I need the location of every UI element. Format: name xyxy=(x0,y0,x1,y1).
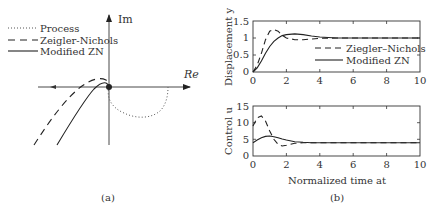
displacement-ylabel: Displacement y xyxy=(223,8,234,86)
ziegler-nichols-curve xyxy=(34,79,109,145)
ytick-label: 5 xyxy=(243,134,249,145)
panel-b-control-plot: 0 5 10 15 0 2 4 6 8 10 Control u xyxy=(223,101,426,170)
process-curve xyxy=(108,87,168,117)
xtick-label: 2 xyxy=(283,75,289,86)
control-zn-curve xyxy=(253,116,420,146)
modified-zn-curve xyxy=(57,83,109,145)
xtick-label: 8 xyxy=(383,159,389,170)
xtick-label: 6 xyxy=(350,159,356,170)
control-ylabel: Control u xyxy=(223,107,234,155)
legend-label-ziegler-nichols: Zeigler-Nichols xyxy=(40,35,118,46)
xtick-label: 4 xyxy=(317,159,323,170)
panel-a-nyquist-plot: Re Im Process Zeigler-Nichols Modified Z… xyxy=(8,13,199,203)
re-axis-label: Re xyxy=(183,68,199,81)
panel-a-legend: Process Zeigler-Nichols Modified ZN xyxy=(8,23,118,57)
origin-point-icon xyxy=(106,84,112,90)
ytick-label: 0 xyxy=(243,66,249,77)
legend-label-process: Process xyxy=(40,23,79,34)
ytick-label: 15 xyxy=(236,101,249,112)
panel-b-legend: Ziegler–Nichols Modified ZN xyxy=(315,43,426,66)
panel-a-caption: (a) xyxy=(101,192,115,203)
xtick-label: 10 xyxy=(414,75,427,86)
xtick-label: 0 xyxy=(250,75,256,86)
xtick-label: 10 xyxy=(414,159,427,170)
xtick-label: 8 xyxy=(383,75,389,86)
ytick-label: 10 xyxy=(236,117,249,128)
ytick-label: 0.5 xyxy=(233,49,249,60)
control-modified-zn-curve xyxy=(253,136,420,143)
legend-label-modified-zn: Modified ZN xyxy=(346,55,410,66)
xtick-label: 2 xyxy=(283,159,289,170)
xtick-label: 0 xyxy=(250,159,256,170)
figure: Re Im Process Zeigler-Nichols Modified Z… xyxy=(0,0,430,212)
legend-label-ziegler-nichols: Ziegler–Nichols xyxy=(346,43,426,54)
ytick-label: 1 xyxy=(243,32,249,43)
im-axis-label: Im xyxy=(118,13,133,26)
panel-b-caption: (b) xyxy=(330,192,344,203)
ytick-label: 1.5 xyxy=(233,16,249,27)
time-xlabel: Normalized time at xyxy=(288,175,386,186)
xtick-label: 4 xyxy=(317,75,323,86)
control-axes-frame xyxy=(253,106,420,156)
legend-label-modified-zn: Modified ZN xyxy=(40,46,104,57)
ytick-label: 0 xyxy=(243,150,249,161)
xtick-label: 6 xyxy=(350,75,356,86)
re-axis-marker-icon xyxy=(50,85,56,89)
panel-b-displacement-plot: 0 0.5 1 1.5 0 2 4 6 8 10 Displacement y … xyxy=(223,8,426,86)
